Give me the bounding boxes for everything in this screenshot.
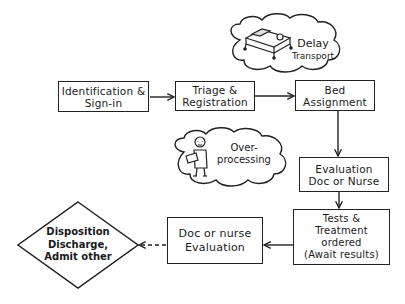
node-evaluation1-line-2: Doc or Nurse: [309, 175, 380, 187]
node-tests-line-1: Tests &: [323, 213, 360, 225]
cloud-delay-transport-label: Delay Transport: [288, 38, 338, 62]
node-disposition-line-1: Disposition: [38, 226, 118, 239]
node-doc-nurse-evaluation: Doc or nurse Evaluation: [167, 217, 263, 264]
node-disposition: Disposition Discharge, Admit other: [38, 226, 118, 264]
node-bed-line-1: Bed: [325, 84, 346, 96]
node-tests-line-4: (Await results): [304, 249, 379, 261]
node-tests-line-3: ordered: [321, 237, 361, 249]
node-triage-line-1: Triage &: [193, 84, 238, 96]
node-identification-line-1: Identification &: [62, 85, 146, 97]
cloud-delay-line-1: Delay: [288, 38, 338, 50]
node-tests-treatment: Tests & Treatment ordered (Await results…: [293, 209, 390, 265]
cloud-delay-line-2: Transport: [288, 50, 338, 62]
cloud-over-line-1: Over-: [212, 142, 276, 154]
node-disposition-line-3: Admit other: [38, 251, 118, 264]
node-identification: Identification & Sign-in: [58, 81, 149, 112]
node-tests-line-2: Treatment: [315, 225, 368, 237]
node-bed-assignment: Bed Assignment: [295, 80, 375, 111]
node-identification-line-2: Sign-in: [85, 97, 123, 109]
cloud-over-processing-label: Over- processing: [212, 142, 276, 166]
node-evaluation1-line-1: Evaluation: [315, 163, 372, 175]
node-triage: Triage & Registration: [175, 81, 255, 111]
node-evaluation2-line-1: Doc or nurse: [179, 227, 252, 241]
node-disposition-line-2: Discharge,: [38, 239, 118, 252]
node-bed-line-2: Assignment: [303, 96, 367, 108]
cloud-over-line-2: processing: [212, 154, 276, 166]
node-evaluation2-line-2: Evaluation: [185, 241, 245, 255]
node-evaluation-doc-nurse: Evaluation Doc or Nurse: [299, 157, 389, 192]
node-triage-line-2: Registration: [182, 96, 248, 108]
